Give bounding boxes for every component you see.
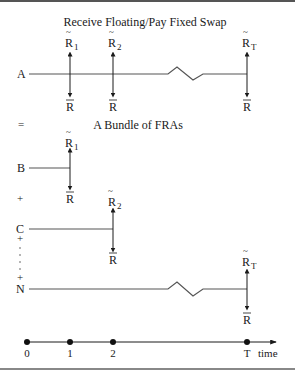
plus-sign: +: [17, 192, 23, 204]
ellipsis-dot: [19, 268, 20, 269]
plus-sign: +: [17, 232, 23, 244]
row-a: A ~ R 1 R ~ R 2 R ~ R T R: [17, 27, 257, 114]
row-b: B ~ R 1 R: [17, 127, 79, 206]
time-tick-label: 1: [67, 347, 73, 359]
subscript: 2: [117, 201, 122, 211]
floating-rate-label: R: [65, 36, 73, 50]
floating-rate-label: R: [242, 255, 250, 269]
time-tick-label: 2: [110, 347, 116, 359]
row-label-a: A: [17, 67, 26, 81]
fixed-rate-label: R: [243, 313, 251, 327]
diagram-subtitle: A Bundle of FRAs: [93, 118, 183, 132]
cashflow-line-a: [29, 67, 247, 80]
row-n: N ~ R T R: [16, 246, 257, 327]
fixed-rate-label: R: [66, 192, 74, 206]
time-tick-label: T: [244, 347, 251, 359]
floating-rate-label: R: [108, 36, 116, 50]
fixed-rate-label: R: [66, 100, 74, 114]
subscript: 1: [74, 142, 79, 152]
fixed-rate-label: R: [109, 253, 117, 267]
subscript: 2: [117, 42, 122, 52]
floating-rate-label: R: [108, 195, 116, 209]
diagram-title: Receive Floating/Pay Fixed Swap: [64, 15, 227, 29]
row-label-b: B: [17, 161, 25, 175]
floating-rate-label: R: [65, 136, 73, 150]
time-axis-label: time: [258, 347, 278, 359]
subscript: T: [251, 261, 257, 271]
time-point: [24, 339, 30, 345]
time-axis: 0 1 2 T time: [24, 339, 278, 359]
equals-sign: =: [18, 118, 24, 130]
fixed-rate-label: R: [109, 100, 117, 114]
time-point: [110, 339, 116, 345]
time-tick-label: 0: [24, 347, 30, 359]
ellipsis-dot: [19, 254, 20, 255]
cashflow-line-n: [29, 282, 247, 296]
continuation-marks: + +: [17, 232, 23, 283]
floating-rate-label: R: [242, 36, 250, 50]
ellipsis-dot: [19, 247, 20, 248]
fixed-rate-label: R: [243, 100, 251, 114]
time-point: [67, 339, 73, 345]
subscript: 1: [74, 42, 79, 52]
subscript: T: [251, 42, 257, 52]
swap-diagram: Receive Floating/Pay Fixed Swap A ~ R 1 …: [0, 0, 295, 378]
time-point: [244, 339, 250, 345]
row-label-n: N: [16, 282, 25, 296]
ellipsis-dot: [19, 261, 20, 262]
